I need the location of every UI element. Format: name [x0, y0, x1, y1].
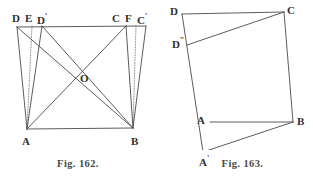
- fig163-label-D-double-prime: D'': [172, 37, 183, 50]
- fig162-label-F: F: [125, 13, 132, 24]
- figure-163-drawing: [160, 0, 313, 150]
- fig162-label-D: D: [12, 13, 20, 24]
- top-edge-D-Cp: [17, 26, 146, 27]
- diagonal-A-C: [27, 26, 126, 129]
- fig163-label-A: A: [197, 115, 205, 126]
- side-D-A: [17, 27, 27, 129]
- edge-D-Ap: [182, 14, 203, 150]
- figure-163-caption: Fig. 163.: [166, 158, 313, 169]
- fig162-label-E: E: [25, 13, 32, 24]
- figure-plate: D E D' C F C' O A B Fig. 162. D C D'' A …: [0, 0, 313, 181]
- side-Dp-A: [27, 26, 42, 129]
- fig163-label-D: D: [170, 6, 178, 17]
- figure-162-caption: Fig. 162.: [0, 158, 158, 169]
- fig162-label-C: C: [112, 13, 120, 24]
- bottom-A-B: [27, 128, 133, 129]
- fig162-label-B: B: [131, 136, 138, 147]
- fig162-label-A: A: [22, 136, 30, 147]
- side-Cp-B: [133, 26, 146, 128]
- fig162-label-O: O: [80, 73, 89, 84]
- figure-163-panel: D C D'' A B A' Fig. 163.: [160, 0, 313, 181]
- edge-Ap-B: [203, 122, 293, 150]
- fig162-label-D-prime: D': [37, 13, 47, 26]
- fig163-label-B: B: [297, 116, 304, 127]
- edge-C-B: [284, 12, 293, 122]
- side-C-B: [126, 26, 133, 128]
- figure-162-panel: D E D' C F C' O A B Fig. 162.: [0, 0, 160, 181]
- edge-D-C: [182, 12, 284, 14]
- fig162-label-C-prime: C': [137, 13, 147, 26]
- edge-Dpp-C: [187, 12, 284, 45]
- fig163-label-C: C: [287, 5, 295, 16]
